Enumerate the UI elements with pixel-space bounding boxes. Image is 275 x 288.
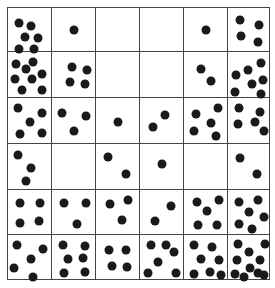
dot-icon	[105, 246, 114, 255]
dot-icon	[162, 241, 171, 250]
dot-icon	[254, 196, 263, 205]
grid-cell	[8, 52, 52, 98]
dot-icon	[212, 132, 221, 141]
dot-icon	[122, 246, 131, 255]
dot-icon	[60, 269, 69, 278]
dot-icon	[244, 66, 253, 75]
grid-cell	[140, 8, 184, 52]
dot-icon	[254, 269, 263, 278]
dot-icon	[234, 120, 243, 129]
dot-icon	[245, 248, 254, 257]
dot-icon	[214, 104, 223, 113]
dot-icon	[79, 254, 88, 263]
grid-cell	[228, 144, 269, 190]
dot-icon	[197, 255, 206, 264]
dot-icon	[193, 198, 202, 207]
grid-cell	[8, 98, 52, 144]
grid-cell	[96, 98, 140, 144]
dot-icon	[256, 256, 265, 265]
dot-icon	[28, 75, 37, 84]
grid-cell	[96, 235, 140, 279]
grid-cell	[140, 144, 184, 190]
dot-icon	[82, 199, 91, 208]
dot-icon	[154, 258, 163, 267]
dot-icon	[124, 196, 133, 205]
dot-icon	[81, 242, 90, 251]
dot-icon	[147, 241, 156, 250]
dot-icon	[114, 118, 123, 127]
dot-icon	[260, 127, 269, 136]
dot-icon	[27, 255, 36, 264]
dot-icon	[256, 108, 265, 117]
grid-cell	[52, 8, 96, 52]
grid-cell	[140, 98, 184, 144]
dot-icon	[39, 245, 48, 254]
dot-icon	[59, 241, 68, 250]
dot-icon	[13, 241, 22, 250]
dot-icon	[149, 123, 158, 132]
dot-icon	[170, 248, 179, 257]
dot-icon	[104, 153, 113, 162]
dot-icon	[36, 199, 45, 208]
grid-cell	[228, 190, 269, 235]
grid-cell	[8, 144, 52, 190]
dot-icon	[232, 71, 241, 80]
dot-icon	[235, 220, 244, 229]
dot-icon	[68, 63, 77, 72]
grid-cell	[184, 98, 228, 144]
dot-icon	[207, 77, 216, 86]
dot-icon	[215, 256, 224, 265]
dot-icon	[213, 221, 222, 230]
dot-icon	[27, 22, 36, 31]
dot-icon	[82, 112, 91, 121]
dot-icon	[106, 200, 115, 209]
dot-icon	[70, 26, 79, 35]
grid-cell	[184, 8, 228, 52]
grid-cell	[228, 8, 269, 52]
dot-icon	[16, 130, 25, 139]
dot-icon	[194, 221, 203, 230]
dot-icon	[240, 273, 249, 282]
dot-icon	[14, 104, 23, 113]
grid-cell	[228, 98, 269, 144]
dot-count-grid	[7, 7, 270, 280]
dot-icon	[190, 270, 199, 279]
dot-icon	[167, 202, 176, 211]
grid-cell	[52, 190, 96, 235]
grid-cell	[184, 190, 228, 235]
dot-icon	[248, 225, 257, 234]
dot-icon	[215, 196, 224, 205]
dot-icon	[64, 255, 73, 264]
dot-icon	[108, 262, 117, 271]
grid-cell	[52, 235, 96, 279]
dot-icon	[257, 59, 266, 68]
dot-icon	[16, 199, 25, 208]
grid-cell	[228, 235, 269, 279]
dot-icon	[66, 78, 75, 87]
dot-icon	[11, 75, 20, 84]
dot-icon	[38, 129, 47, 138]
dot-icon	[122, 170, 131, 179]
dot-icon	[237, 32, 246, 41]
grid-cell	[184, 235, 228, 279]
grid-cell	[140, 235, 184, 279]
dot-icon	[83, 66, 92, 75]
grid-cell	[96, 52, 140, 98]
dot-icon	[158, 160, 167, 169]
dot-icon	[231, 270, 240, 279]
dot-icon	[231, 88, 240, 97]
dot-icon	[234, 240, 243, 249]
dot-icon	[236, 16, 245, 25]
grid-cell	[96, 190, 140, 235]
dot-icon	[197, 65, 206, 74]
dot-icon	[192, 110, 201, 119]
grid-cell	[52, 98, 96, 144]
dot-icon	[16, 219, 25, 228]
dot-icon	[161, 111, 170, 120]
dot-icon	[22, 177, 31, 186]
dot-icon	[58, 109, 67, 118]
dot-icon	[34, 34, 43, 43]
dot-icon	[81, 80, 90, 89]
dot-icon	[248, 80, 257, 89]
dot-icon	[172, 269, 181, 278]
